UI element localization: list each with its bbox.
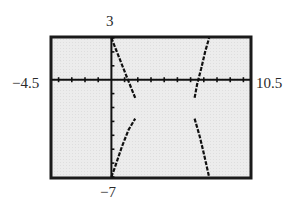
plot-frame <box>51 37 251 178</box>
graph-screen <box>0 0 298 213</box>
